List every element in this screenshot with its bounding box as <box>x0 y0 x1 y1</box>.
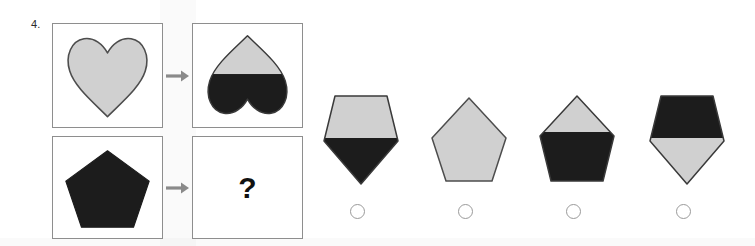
question-number: 4. <box>31 18 41 30</box>
arrow-right-icon-top <box>164 66 192 86</box>
heart-inverted-split-icon <box>193 24 302 127</box>
question-mark: ? <box>193 137 302 238</box>
scan-shading-bottom <box>0 238 755 246</box>
pentagon-upright-split-icon <box>534 88 620 188</box>
answer-option-d[interactable] <box>644 88 730 228</box>
pentagon-inverted-light-top-icon <box>318 88 404 188</box>
stimulus-panel-answer-placeholder: ? <box>192 136 303 239</box>
stimulus-panel-top-left <box>52 23 163 128</box>
option-c-radio[interactable] <box>566 204 581 219</box>
stimulus-panel-top-right <box>192 23 303 128</box>
answer-option-c[interactable] <box>534 88 620 228</box>
stimulus-matrix: ? <box>52 23 304 239</box>
stimulus-panel-bottom-left <box>52 136 163 239</box>
answer-option-b[interactable] <box>426 88 512 228</box>
option-c-shape[interactable] <box>534 88 620 188</box>
pentagon-upright-light-icon <box>426 88 512 188</box>
option-b-shape[interactable] <box>426 88 512 188</box>
answer-options <box>318 88 738 238</box>
pentagon-dark-icon <box>53 137 162 238</box>
arrow-right-icon-bottom <box>164 178 192 198</box>
pentagon-inverted-dark-top-icon <box>644 88 730 188</box>
option-b-radio[interactable] <box>458 204 473 219</box>
option-d-shape[interactable] <box>644 88 730 188</box>
answer-option-a[interactable] <box>318 88 404 228</box>
option-a-radio[interactable] <box>350 204 365 219</box>
option-a-shape[interactable] <box>318 88 404 188</box>
heart-light-icon <box>53 24 162 127</box>
option-d-radio[interactable] <box>676 204 691 219</box>
